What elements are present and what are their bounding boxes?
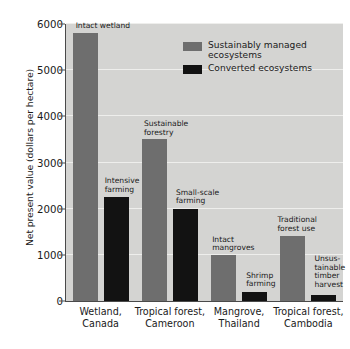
gridline	[66, 162, 343, 163]
legend-item-converted: Converted ecosystems	[183, 63, 312, 74]
x-axis-line	[65, 301, 343, 302]
y-axis-tick-mark	[59, 162, 65, 163]
y-axis-tick-label: 2000	[3, 203, 63, 214]
bar-value-label: Intact wetland	[76, 22, 131, 31]
legend-swatch-icon-sustainable	[183, 42, 202, 51]
y-axis-tick-mark	[59, 116, 65, 117]
gridline	[66, 115, 343, 116]
y-axis-tick-mark	[59, 208, 65, 209]
y-axis-tick-mark	[59, 24, 65, 25]
legend-item-sustainable: Sustainably managed ecosystems	[183, 40, 312, 61]
bar-value-label: Traditional forest use	[277, 216, 317, 233]
bar	[142, 139, 167, 301]
bar	[173, 209, 198, 301]
bar	[242, 292, 267, 301]
y-axis-tick-mark	[59, 301, 65, 302]
y-axis-tick-label: 1000	[3, 249, 63, 260]
legend: Sustainably managed ecosystems Converted…	[183, 40, 312, 76]
bar-chart-figure: Net present value (dollars per hectare) …	[0, 0, 350, 349]
bar-value-label: Intact mangroves	[212, 236, 254, 253]
x-axis-category-label: Tropical forest, Cambodia	[266, 306, 350, 329]
bar-value-label: Small-scale farming	[176, 189, 219, 206]
legend-label-converted: Converted ecosystems	[208, 63, 312, 73]
y-axis-tick-label: 3000	[3, 157, 63, 168]
y-axis-tick-mark	[59, 254, 65, 255]
y-axis-tick-label: 6000	[3, 19, 63, 30]
bar	[104, 197, 129, 301]
y-axis-tick-label: 0	[3, 296, 63, 307]
bar	[311, 295, 336, 301]
bar	[73, 33, 98, 301]
y-axis-tick-label: 4000	[3, 111, 63, 122]
legend-label-sustainable: Sustainably managed ecosystems	[208, 40, 307, 61]
y-axis-tick-mark	[59, 70, 65, 71]
y-axis-tick-label: 5000	[3, 65, 63, 76]
bar	[211, 255, 236, 301]
bar-value-label: Sustainable forestry	[144, 120, 188, 137]
legend-swatch-icon-converted	[183, 65, 202, 74]
bar-value-label: Unsus- tainable timber harvest	[314, 255, 345, 289]
bar-value-label: Shrimp farming	[246, 272, 275, 289]
bar	[280, 236, 305, 301]
bar-value-label: Intensive farming	[105, 177, 140, 194]
